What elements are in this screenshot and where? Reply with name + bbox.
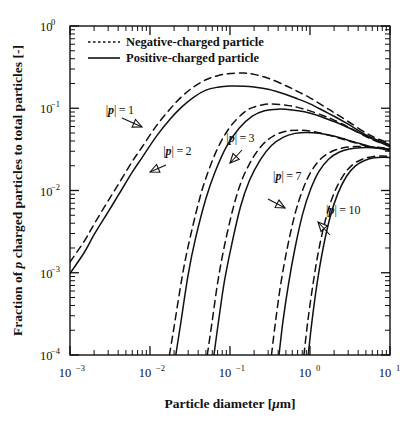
y-axis-title: Fraction of p charged particles to total… (10, 45, 25, 336)
curve-p10positive (308, 157, 390, 355)
x-tick-label-0: 10−3 (59, 363, 85, 380)
svg-text:10: 10 (219, 366, 232, 380)
leader-line-3 (268, 199, 285, 208)
annotation-2: |p| = 3 (226, 131, 254, 145)
x-tick-label-4: 101 (379, 363, 401, 380)
x-tick-label-1: 10−2 (139, 363, 165, 380)
svg-text:0: 0 (316, 363, 320, 373)
svg-text:0: 0 (51, 17, 55, 27)
curve-p3positive (214, 132, 390, 355)
x-axis-title: Particle diameter [μm] (165, 396, 296, 411)
svg-text:|p| = 10: |p| = 10 (326, 203, 360, 217)
leader-line-0 (122, 118, 142, 127)
svg-text:|p| = 1: |p| = 1 (106, 103, 134, 117)
plot-frame (70, 26, 390, 355)
curve-p3negative (207, 130, 390, 355)
curve-p10negative (304, 156, 390, 355)
svg-text:1: 1 (396, 363, 400, 373)
curve-p2negative (169, 104, 390, 355)
legend-label-0: Negative-charged particle (126, 35, 264, 49)
svg-text:−3: −3 (76, 363, 85, 373)
curve-p1negative (70, 73, 390, 262)
svg-text:Fraction of p charged particle: Fraction of p charged particles to total… (10, 45, 25, 336)
figure-container: 10−310−210−110010110010−110−210−310−4Par… (0, 0, 415, 421)
annotation-0: |p| = 1 (106, 103, 134, 117)
annotation-3: |p| = 7 (273, 169, 301, 183)
svg-text:10: 10 (139, 366, 152, 380)
svg-text:−4: −4 (51, 346, 61, 356)
x-tick-label-3: 100 (299, 363, 321, 380)
svg-text:|p| = 2: |p| = 2 (163, 144, 191, 158)
svg-text:Particle diameter [μm]: Particle diameter [μm] (165, 396, 296, 411)
log-log-chart: 10−310−210−110010110010−110−210−310−4Par… (0, 0, 415, 421)
svg-text:10: 10 (59, 366, 72, 380)
y-tick-label-4: 10−4 (40, 346, 61, 363)
legend-label-1: Positive-charged particle (126, 51, 259, 65)
svg-text:−2: −2 (156, 363, 165, 373)
svg-text:|p| = 7: |p| = 7 (273, 169, 301, 183)
annotation-4: |p| = 10 (326, 203, 360, 217)
leader-arrowhead-0 (132, 120, 142, 128)
y-tick-label-2: 10−2 (40, 182, 60, 199)
leader-arrowhead-1 (150, 165, 160, 173)
svg-text:−2: −2 (51, 182, 60, 192)
y-tick-label-3: 10−3 (40, 264, 60, 281)
svg-text:−3: −3 (51, 264, 60, 274)
svg-text:−1: −1 (51, 99, 60, 109)
y-tick-label-0: 100 (40, 17, 55, 34)
svg-text:10: 10 (379, 366, 392, 380)
svg-text:|p| = 3: |p| = 3 (226, 131, 254, 145)
svg-text:−1: −1 (236, 363, 245, 373)
y-tick-label-1: 10−1 (40, 99, 60, 116)
leader-arrowhead-3 (275, 200, 285, 208)
annotation-1: |p| = 2 (163, 144, 191, 158)
svg-text:10: 10 (299, 366, 312, 380)
x-tick-label-2: 10−1 (219, 363, 245, 380)
